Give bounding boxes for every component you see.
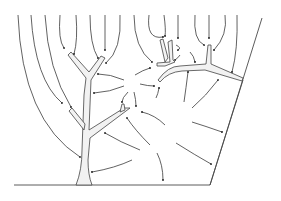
drainage-network-diagram xyxy=(0,0,281,201)
tributary-channel xyxy=(157,39,243,82)
flow-arrows xyxy=(18,15,237,180)
